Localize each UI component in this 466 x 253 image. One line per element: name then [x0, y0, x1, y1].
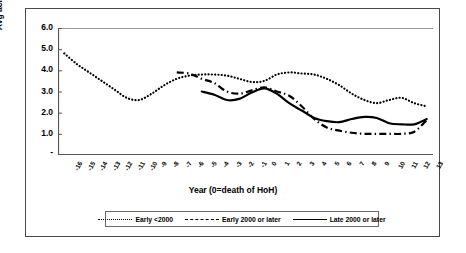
y-tick-label: 6.0	[41, 23, 53, 32]
x-tick-label: 13	[434, 160, 444, 170]
x-tick-label: 3	[308, 160, 316, 167]
x-tick-label: -11	[135, 160, 146, 171]
x-tick-label: -13	[110, 160, 121, 172]
x-tick-label: 8	[370, 160, 378, 167]
x-axis-label: Year (0=death of HoH)	[0, 185, 466, 195]
x-tick-label: -15	[85, 160, 96, 172]
y-tick-label: 2.0	[41, 108, 53, 117]
x-tick-label: 5	[333, 160, 341, 167]
x-tick-label: -10	[148, 160, 159, 172]
x-tick-label: -12	[123, 160, 134, 172]
plot-area	[58, 28, 433, 155]
x-axis-ticks: -16-15-14-13-12-11-10-9-8-7-6-5-4-3-2-10…	[0, 158, 466, 182]
x-tick-label: -3	[234, 160, 243, 169]
legend-label: Late 2000 or later	[330, 216, 386, 223]
x-tick-label: 11	[409, 160, 418, 169]
x-tick-label: 10	[397, 160, 407, 170]
series-line-0	[64, 53, 427, 106]
legend-swatch-dashdot	[185, 219, 219, 220]
x-tick-label: -4	[221, 160, 230, 169]
plot-svg	[58, 28, 433, 155]
chart-legend: Early <2000Early 2000 or laterLate 2000 …	[105, 211, 379, 227]
x-tick-label: 6	[345, 160, 353, 167]
x-tick-label: -2	[246, 160, 255, 169]
legend-item: Late 2000 or later	[293, 216, 386, 223]
x-tick-label: -8	[171, 160, 180, 169]
x-tick-label: 12	[422, 160, 432, 170]
y-tick-label: 4.0	[41, 65, 53, 74]
y-axis-ticks: -1.02.03.04.05.06.0	[20, 28, 53, 155]
x-tick-label: -1	[259, 160, 268, 169]
x-tick-label: 4	[320, 160, 328, 167]
y-tick-label: 5.0	[41, 44, 53, 53]
x-tick-label: -6	[196, 160, 205, 169]
legend-label: Early 2000 or later	[222, 216, 281, 223]
legend-item: Early <2000	[98, 216, 173, 223]
x-tick-label: 9	[383, 160, 391, 167]
legend-item: Early 2000 or later	[185, 216, 281, 223]
series-line-1	[177, 72, 427, 134]
legend-label: Early <2000	[135, 216, 173, 223]
x-tick-label: -14	[98, 160, 109, 172]
y-tick-label: 3.0	[41, 87, 53, 96]
legend-swatch-solid	[293, 219, 327, 220]
x-tick-label: 1	[283, 160, 291, 167]
y-tick-label: 1.0	[41, 129, 53, 138]
chart-figure: Avg acres -1.02.03.04.05.06.0 -16-15-14-…	[0, 0, 466, 253]
x-tick-label: -5	[209, 160, 218, 169]
x-tick-label: 2	[295, 160, 303, 167]
y-axis-label: Avg acres	[0, 0, 4, 55]
x-tick-label: 7	[358, 160, 366, 167]
legend-swatch-dotted	[98, 219, 132, 220]
y-tick-label: -	[50, 148, 53, 157]
x-tick-label: 0	[270, 160, 278, 167]
x-tick-label: -16	[73, 160, 84, 172]
x-tick-label: -7	[184, 160, 193, 169]
x-tick-label: -9	[159, 160, 168, 169]
